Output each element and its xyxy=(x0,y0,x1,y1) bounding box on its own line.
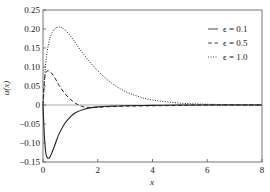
y-tick-label: 0.05 xyxy=(24,81,40,91)
x-tick-label: 8 xyxy=(260,165,265,175)
y-tick-label: 0.20 xyxy=(24,24,40,34)
x-tick-label: 4 xyxy=(150,165,155,175)
x-axis-label: x xyxy=(149,177,154,187)
legend-label: ϵ = 0.5 xyxy=(223,38,248,48)
legend: ϵ = 0.1ϵ = 0.5ϵ = 1.0 xyxy=(208,24,248,62)
chart: −0.15−0.10−0.0500.050.100.150.200.25 024… xyxy=(0,0,270,192)
series-line-1 xyxy=(43,105,262,158)
y-tick-label: −0.15 xyxy=(19,157,40,167)
legend-label: ϵ = 0.1 xyxy=(223,24,247,34)
x-tick-label: 2 xyxy=(96,165,101,175)
x-tick-label: 0 xyxy=(41,165,46,175)
y-tick-label: 0.15 xyxy=(24,43,40,53)
y-tick-label: 0.10 xyxy=(24,62,40,72)
x-tick-label: 6 xyxy=(205,165,210,175)
y-tick-label: 0.25 xyxy=(24,5,40,15)
series-line-2 xyxy=(43,71,262,108)
legend-label: ϵ = 1.0 xyxy=(223,52,248,62)
y-tick-label: −0.05 xyxy=(19,119,40,129)
y-axis-label: u(x) xyxy=(1,81,11,96)
y-tick-label: −0.10 xyxy=(19,138,40,148)
y-tick-label: 0 xyxy=(36,100,41,110)
